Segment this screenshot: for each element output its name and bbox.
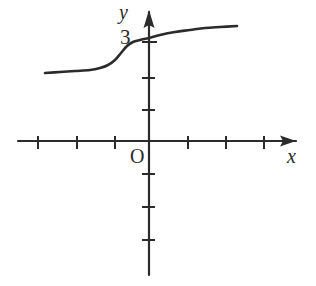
x-axis-ticks-positive [188,136,264,149]
coordinate-plane-svg [0,0,316,286]
x-axis-ticks-negative [38,136,115,149]
x-axis-label: x [287,146,296,166]
y-axis-label: y [119,2,128,22]
origin-label: O [130,146,144,166]
function-curve [45,26,237,73]
y-intercept-tick-label: 3 [120,27,131,48]
graph-figure: y x 3 O [0,0,316,286]
